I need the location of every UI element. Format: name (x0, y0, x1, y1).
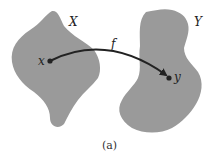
function-mapping-diagram: X Y x y f (a) (0, 0, 215, 156)
mapping-label-f: f (110, 37, 118, 51)
point-x-dot (47, 58, 52, 63)
point-x-label: x (38, 54, 45, 68)
set-x-label: X (68, 15, 78, 29)
point-y-label: y (173, 70, 181, 84)
point-y-dot (166, 75, 171, 80)
figure-caption: (a) (102, 139, 117, 152)
set-y-label: Y (194, 15, 203, 29)
set-x-region (12, 11, 100, 127)
